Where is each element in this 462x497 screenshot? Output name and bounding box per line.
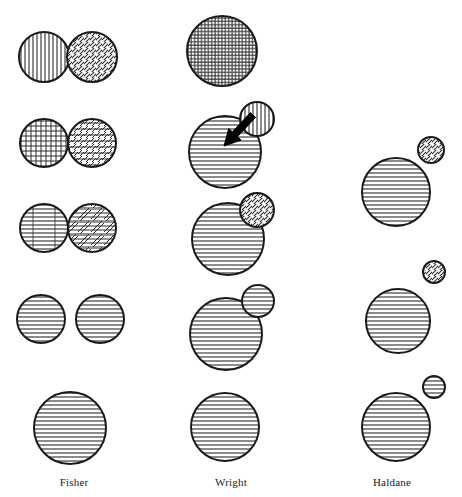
fisher-stage2-circle-right	[68, 119, 116, 167]
fisher-stage2-circle-left	[20, 119, 68, 167]
wright-stage1-circle	[187, 16, 257, 86]
fisher-stage1-circle-left	[19, 32, 69, 82]
wright-stage5-circle	[191, 393, 259, 461]
fisher-stage4-circle-left	[17, 295, 65, 343]
haldane-stage2-main	[362, 158, 430, 226]
column-label-fisher: Fisher	[60, 476, 89, 488]
column-label-wright: Wright	[215, 476, 247, 488]
haldane-stage4-mutant	[423, 261, 445, 283]
figure-container: FisherWrightHaldane	[0, 0, 462, 497]
wright-stage4-deme	[242, 285, 274, 317]
figure-canvas	[0, 0, 462, 497]
haldane-stage5-mutant	[423, 376, 445, 398]
fisher-stage3-circle-right	[68, 204, 116, 252]
haldane-stage2-mutant	[418, 137, 444, 163]
shape-layer	[17, 16, 445, 464]
fisher-stage3-circle-left	[20, 204, 68, 252]
column-label-haldane: Haldane	[373, 476, 411, 488]
haldane-stage5-main	[362, 393, 430, 461]
haldane-stage4-main	[366, 289, 430, 353]
fisher-stage4-circle-right	[76, 295, 124, 343]
fisher-stage1-circle-right	[67, 32, 117, 82]
wright-stage3-deme	[240, 193, 274, 227]
fisher-stage5-circle	[34, 392, 106, 464]
